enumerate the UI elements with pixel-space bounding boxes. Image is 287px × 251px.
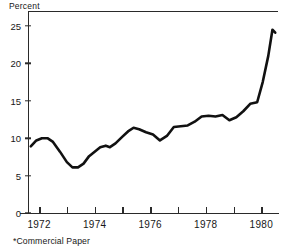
x-tick-label: 1976 (138, 219, 161, 230)
x-tick-label: 1972 (27, 219, 50, 230)
chart-root: Percent 0510152025 19721974197619781980 … (0, 0, 287, 251)
y-tick-label: 25 (1, 20, 21, 31)
chart-footnote: *Commercial Paper (13, 236, 90, 246)
y-tick-label: 20 (1, 58, 21, 69)
y-tick-label: 5 (1, 170, 21, 181)
data-series-layer (28, 11, 278, 213)
x-axis-baseline (20, 213, 279, 215)
x-tick-label: 1980 (250, 219, 273, 230)
x-tick-label: 1974 (83, 219, 106, 230)
y-tick-label: 10 (1, 133, 21, 144)
y-tick-label: 15 (1, 95, 21, 106)
y-tick-label: 0 (1, 208, 21, 219)
series-line-commercial-paper (31, 30, 275, 168)
y-axis-title: Percent (9, 1, 40, 11)
x-tick-label: 1978 (194, 219, 217, 230)
